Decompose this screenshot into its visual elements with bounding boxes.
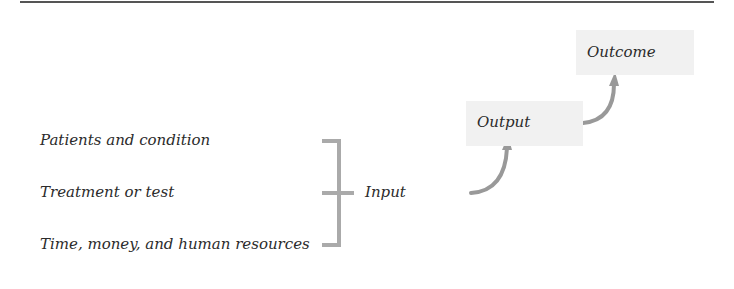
input-item-patients: Patients and condition (40, 131, 210, 149)
arrow-output-to-outcome (583, 72, 619, 123)
input-item-treatment: Treatment or test (40, 183, 174, 201)
output-label: Output (477, 113, 530, 131)
input-bracket (322, 141, 354, 245)
input-label: Input (365, 183, 406, 201)
outcome-label: Outcome (587, 43, 656, 61)
input-item-resources: Time, money, and human resources (40, 235, 310, 253)
